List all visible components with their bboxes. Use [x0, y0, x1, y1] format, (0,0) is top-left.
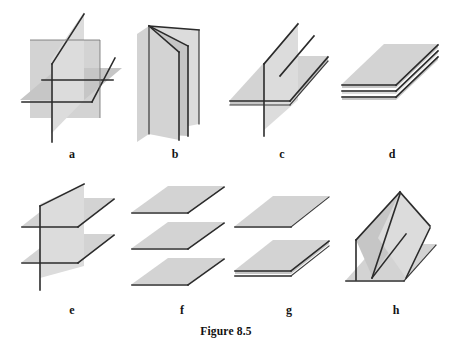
panel-f: f — [128, 182, 236, 322]
panel-h-diagram — [344, 182, 448, 304]
panel-label-d: d — [338, 148, 446, 160]
panel-label-f: f — [128, 304, 236, 316]
panel-d: d — [338, 8, 446, 156]
panel-g: g — [233, 182, 345, 322]
panel-g-diagram — [233, 182, 345, 304]
panel-a: a — [18, 8, 126, 156]
panel-e: e — [18, 182, 126, 322]
plane-vertical-transverse — [40, 184, 84, 278]
panel-label-c: c — [228, 148, 336, 160]
panel-c: c — [228, 8, 336, 156]
panel-h: h — [344, 182, 448, 322]
panel-e-diagram — [18, 182, 126, 304]
panel-d-diagram — [338, 8, 446, 146]
panel-label-b: b — [133, 148, 217, 160]
panel-b-diagram — [133, 8, 217, 146]
panel-b: b — [133, 8, 217, 156]
panel-c-diagram — [228, 8, 336, 146]
panel-label-e: e — [18, 304, 126, 316]
plane-parallel-2 — [132, 222, 224, 248]
figure-8-5: a b — [0, 0, 452, 350]
panel-label-g: g — [233, 304, 345, 316]
panel-f-diagram — [128, 182, 236, 304]
panel-a-diagram — [18, 8, 126, 146]
plane-page-left — [137, 26, 149, 142]
panel-label-h: h — [344, 304, 448, 316]
plane-single-upper — [235, 196, 329, 226]
panel-label-a: a — [18, 148, 126, 160]
plane-parallel-1 — [132, 186, 224, 212]
figure-caption: Figure 8.5 — [0, 325, 452, 337]
plane-parallel-3 — [132, 258, 224, 284]
